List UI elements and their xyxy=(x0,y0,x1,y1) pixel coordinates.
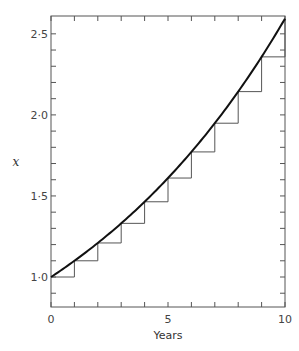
y-tick-label: 2·5 xyxy=(31,28,49,41)
y-tick-label: 1·0 xyxy=(31,271,49,284)
y-axis-ticks: 1·01·52·02·5 xyxy=(31,28,286,293)
y-tick-label: 1·5 xyxy=(31,190,49,203)
step-series xyxy=(51,19,285,277)
x-axis-ticks: 0510 xyxy=(48,16,293,326)
y-tick-label: 2·0 xyxy=(31,109,49,122)
growth-chart: 0510 1·01·52·02·5 Years x xyxy=(0,0,299,351)
x-tick-label: 5 xyxy=(165,313,172,326)
growth-curve xyxy=(51,19,285,277)
x-axis-label: Years xyxy=(152,329,182,342)
plot-frame xyxy=(51,16,285,307)
y-axis-label: x xyxy=(13,155,20,169)
x-tick-label: 0 xyxy=(48,313,55,326)
x-tick-label: 10 xyxy=(278,313,292,326)
